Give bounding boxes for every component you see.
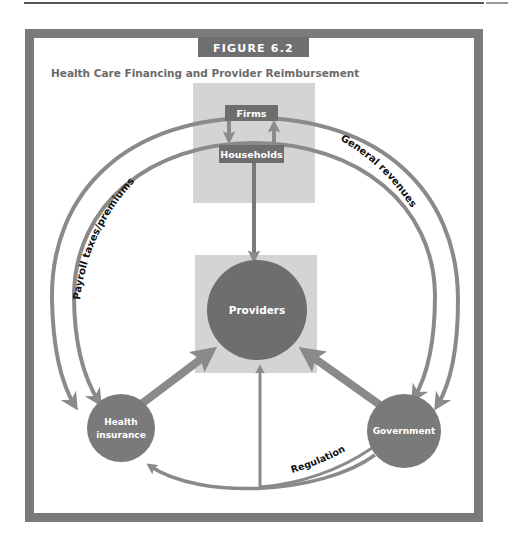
providers-label: Providers: [229, 304, 286, 316]
figure-title: Health Care Financing and Provider Reimb…: [51, 67, 359, 79]
firms-label: Firms: [237, 108, 267, 119]
government-label: Government: [373, 426, 436, 436]
health-insurance-node: [87, 394, 155, 462]
households-label: Households: [220, 149, 283, 160]
health-insurance-label-line2: insurance: [96, 430, 146, 440]
figure-diagram: FIGURE 6.2 Health Care Financing and Pro…: [0, 0, 508, 550]
figure-number-label: FIGURE 6.2: [213, 42, 294, 55]
health-insurance-label-line1: Health: [104, 417, 138, 427]
